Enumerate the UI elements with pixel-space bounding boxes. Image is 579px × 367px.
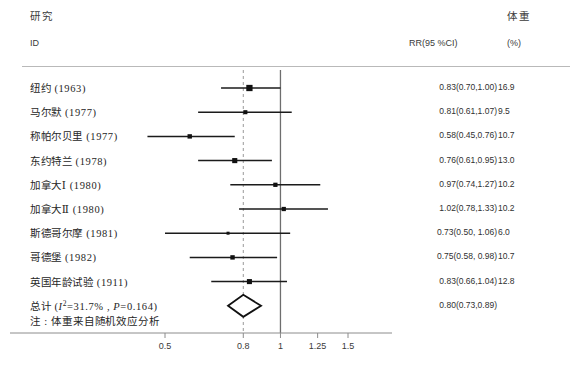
rr-value: 0.73(0.50, 1.06)	[437, 227, 497, 237]
rr-value: 0.58(0.45,0.76)	[439, 130, 497, 140]
rr-value: 0.83(0.70,1.00)	[439, 82, 497, 92]
study-point-marker	[246, 85, 252, 91]
weight-value: 16.9	[498, 82, 515, 92]
rr-value: 1.02(0.78,1.33)	[439, 203, 497, 213]
summary-diamond	[228, 295, 261, 317]
weight-value: 12.8	[498, 276, 515, 286]
rr-value: 0.75(0.58, 0.98)	[437, 251, 497, 261]
x-axis-tick-label: 1	[278, 341, 283, 351]
study-label: 纽约 (1963)	[30, 80, 86, 95]
rr-value: 0.97(0.74,1.27)	[439, 179, 497, 189]
weight-value: 10.2	[498, 179, 515, 189]
x-axis-tick-label: 0.5	[159, 341, 172, 351]
rr-value: 0.81(0.61,1.07)	[439, 106, 497, 116]
weight-value: 10.7	[498, 251, 515, 261]
study-point-marker	[243, 110, 247, 114]
x-axis-tick-label: 1.25	[309, 341, 327, 351]
weight-value: 9.5	[498, 106, 510, 116]
study-label: 马尔默 (1977)	[30, 104, 97, 119]
study-point-marker	[273, 183, 277, 187]
study-label: 称帕尔贝里 (1977)	[30, 128, 118, 143]
x-axis-tick-label: 0.8	[237, 341, 250, 351]
study-point-marker	[230, 255, 234, 259]
weight-value: 6.0	[498, 227, 510, 237]
x-axis-tick-label: 1.5	[342, 341, 355, 351]
study-label: 英国年龄试验 (1911)	[30, 274, 128, 289]
rr-value: 0.80(0.73,0.89)	[439, 300, 497, 310]
study-label: 东约特兰 (1978)	[30, 153, 107, 168]
study-label: 总计 (I2=31.7% , P=0.164)	[30, 298, 158, 313]
study-point-marker	[282, 207, 286, 211]
rr-value: 0.76(0.61,0.95)	[439, 155, 497, 165]
weight-value: 10.7	[498, 130, 515, 140]
study-label: 哥德堡 (1982)	[30, 249, 97, 264]
study-label: 斯德哥尔摩 (1981)	[30, 225, 118, 240]
study-point-marker	[188, 134, 192, 138]
weight-value: 10.2	[498, 203, 515, 213]
study-point-marker	[232, 158, 237, 163]
weight-value: 13.0	[498, 155, 515, 165]
study-point-marker	[247, 279, 252, 284]
study-label: 加拿大Ⅱ (1980)	[30, 201, 104, 216]
rr-value: 0.83(0.66,1.04)	[439, 276, 497, 286]
study-label: 加拿大Ⅰ (1980)	[30, 177, 101, 192]
study-point-marker	[227, 232, 230, 235]
